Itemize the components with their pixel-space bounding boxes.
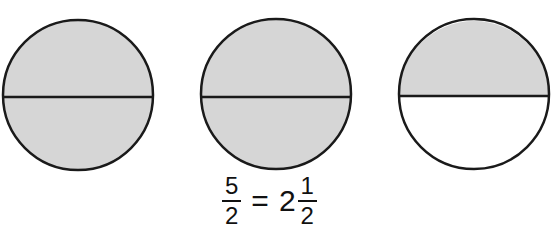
improper-fraction: 5 2: [222, 174, 241, 226]
mixed-numerator: 1: [298, 174, 317, 200]
equation: 5 2 = 2 1 2: [222, 176, 317, 226]
circle-2: [201, 19, 351, 169]
mixed-fraction: 1 2: [298, 174, 317, 226]
circle-3-shaded-half: [399, 21, 549, 96]
circle-1: [3, 20, 153, 170]
mixed-denominator: 2: [298, 202, 317, 226]
improper-numerator: 5: [222, 174, 241, 200]
equals-sign: =: [251, 184, 269, 218]
improper-denominator: 2: [222, 202, 241, 226]
circle-3: [399, 19, 549, 171]
circle-3-unshaded-half: [399, 96, 549, 171]
fraction-circles-diagram: [0, 0, 551, 180]
mixed-whole: 2: [279, 184, 296, 218]
